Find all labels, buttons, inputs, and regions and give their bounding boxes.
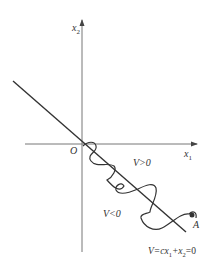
region-positive-label: V>0 bbox=[133, 157, 151, 168]
switching-line-label: V=cx1+x2=0 bbox=[148, 246, 196, 258]
phase-plane-diagram: x2 x1 O V>0 V<0 A V=cx1+x2=0 bbox=[0, 0, 212, 272]
point-a bbox=[190, 213, 195, 218]
trajectory-curve bbox=[83, 142, 196, 229]
switching-line bbox=[13, 81, 186, 232]
point-a-label: A bbox=[192, 219, 200, 230]
origin-label: O bbox=[70, 145, 77, 156]
region-negative-label: V<0 bbox=[103, 208, 121, 219]
x1-axis-label: x1 bbox=[183, 148, 192, 162]
x2-axis-label: x2 bbox=[71, 22, 80, 36]
